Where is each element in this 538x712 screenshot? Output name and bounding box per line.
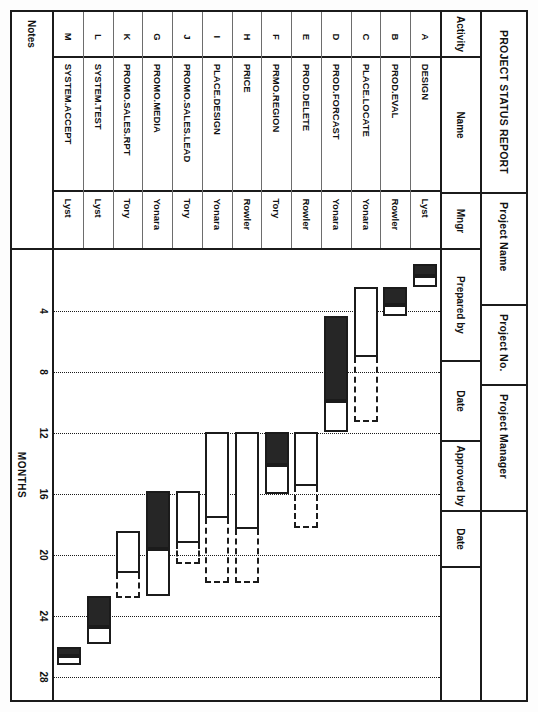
axis-tick-12: 12 <box>38 427 49 438</box>
table-row[interactable]: ADESIGNLyst <box>410 12 440 248</box>
gantt-bar[interactable] <box>57 647 81 665</box>
gantt-bar-remaining <box>265 465 289 494</box>
gantt-status-report-page: PROJECT STATUS REPORT Project Name Proje… <box>0 0 538 712</box>
gantt-bar-completed <box>383 287 407 305</box>
activity-cell: L <box>84 12 113 58</box>
gantt-bar[interactable] <box>383 287 407 316</box>
activity-cell: A <box>411 12 440 58</box>
gantt-bar[interactable] <box>294 432 318 487</box>
header-prepared-by: Prepared by <box>442 250 480 362</box>
axis-tick-4: 4 <box>38 308 49 314</box>
header-plot-spacer <box>442 568 480 700</box>
project-no-cell[interactable]: Project No. <box>482 306 526 386</box>
table-row[interactable]: FPRMO.REGIONTory <box>261 12 291 248</box>
activity-cell: I <box>203 12 232 58</box>
gantt-bar[interactable] <box>87 596 111 643</box>
gridline-month-24 <box>54 616 440 617</box>
gantt-bar-completed <box>324 316 348 401</box>
header-approved-by: Approved by <box>442 442 480 512</box>
gantt-bar-remaining <box>176 491 200 543</box>
table-row[interactable]: CPLACE.LOCATEYonara <box>351 12 381 248</box>
axis-tick-8: 8 <box>38 369 49 375</box>
gantt-bar-remaining <box>57 656 81 665</box>
manager-cell: Rowler <box>381 192 410 248</box>
activity-name-cell: SYSTEM.TEST <box>84 58 113 193</box>
project-manager-label: Project Manager <box>498 394 510 479</box>
activity-cell: B <box>381 12 410 58</box>
table-row[interactable]: HPRICERowler <box>232 12 262 248</box>
project-name-cell[interactable]: Project Name <box>482 194 526 306</box>
axis-tick-20: 20 <box>38 550 49 561</box>
notes-label: Notes <box>27 20 38 48</box>
gantt-bar-remaining <box>205 432 229 519</box>
project-no-label: Project No. <box>498 314 510 372</box>
gantt-bar-remaining <box>324 401 348 432</box>
gantt-bar[interactable] <box>265 432 289 495</box>
manager-cell: Yonara <box>203 192 232 248</box>
activity-cell: J <box>173 12 202 58</box>
gantt-bar[interactable] <box>146 491 170 596</box>
project-manager-cell[interactable]: Project Manager <box>482 386 526 512</box>
column-header-bar: Activity Name Mngr Prepared by Date Appr… <box>440 12 480 700</box>
header-mngr: Mngr <box>442 194 480 250</box>
gantt-chart-plot <box>54 250 440 700</box>
gantt-bar[interactable] <box>176 491 200 543</box>
gantt-bar[interactable] <box>116 531 140 574</box>
header-name: Name <box>442 58 480 194</box>
table-row[interactable]: IPLACE.DESIGNYonara <box>202 12 232 248</box>
report-sheet: PROJECT STATUS REPORT Project Name Proje… <box>10 10 528 702</box>
gantt-bar[interactable] <box>324 316 348 432</box>
manager-cell: Lyst <box>411 192 440 248</box>
gantt-bar[interactable] <box>354 287 378 357</box>
activity-name-cell: PLACE.LOCATE <box>352 58 381 193</box>
activity-name-cell: DESIGN <box>411 58 440 193</box>
activity-cell: M <box>54 12 83 58</box>
gantt-bar-completed <box>265 432 289 466</box>
manager-cell: Lyst <box>54 192 83 248</box>
manager-cell: Lyst <box>84 192 113 248</box>
gantt-bar-completed <box>413 264 437 276</box>
activity-name-cell: PROD.DELETE <box>292 58 321 193</box>
activity-cell: D <box>322 12 351 58</box>
gantt-bar-remaining <box>383 305 407 316</box>
manager-cell: Rowler <box>292 192 321 248</box>
activity-name-cell: PROD.EVAL <box>381 58 410 193</box>
header-activity: Activity <box>442 12 480 58</box>
table-row[interactable]: DPROD.FORCASTYonara <box>321 12 351 248</box>
gridline-month-28 <box>54 677 440 678</box>
table-row[interactable]: LSYSTEM.TESTLyst <box>83 12 113 248</box>
months-axis: MONTHS 481216202428 <box>12 250 52 700</box>
activity-cell: H <box>233 12 262 58</box>
table-row[interactable]: MSYSTEM.ACCEPTLyst <box>54 12 83 248</box>
manager-cell: Tory <box>173 192 202 248</box>
notes-cell[interactable]: Notes <box>12 12 52 250</box>
table-row[interactable]: KPROMO.SALES.RPTTory <box>113 12 143 248</box>
report-body: ADESIGNLystBPROD.EVALRowlerCPLACE.LOCATE… <box>54 12 440 700</box>
gantt-bar-remaining <box>146 549 170 596</box>
table-row[interactable]: EPROD.DELETERowler <box>291 12 321 248</box>
table-row[interactable]: JPROMO.SALES.LEADTory <box>172 12 202 248</box>
manager-cell: Yonara <box>322 192 351 248</box>
gantt-bar[interactable] <box>205 432 229 519</box>
gantt-bar[interactable] <box>413 264 437 287</box>
activity-cell: C <box>352 12 381 58</box>
table-row[interactable]: BPROD.EVALRowler <box>380 12 410 248</box>
title-bar-spacer <box>482 512 526 700</box>
axis-tick-16: 16 <box>38 489 49 500</box>
gantt-bar-completed <box>57 647 81 656</box>
activity-name-cell: PROMO.MEDIA <box>143 58 172 193</box>
gridline-month-8 <box>54 372 440 373</box>
gantt-bar-remaining <box>354 287 378 357</box>
activity-name-cell: PROMO.SALES.LEAD <box>173 58 202 193</box>
manager-cell: Yonara <box>143 192 172 248</box>
activity-name-cell: PROD.FORCAST <box>322 58 351 193</box>
table-row[interactable]: GPROMO.MEDIAYonara <box>142 12 172 248</box>
gantt-float-bar <box>176 543 200 564</box>
report-title: PROJECT STATUS REPORT <box>482 12 526 194</box>
gantt-float-bar <box>294 486 318 527</box>
activity-name-cell: PRMO.REGION <box>262 58 291 193</box>
manager-cell: Rowler <box>233 192 262 248</box>
report-title-bar: PROJECT STATUS REPORT Project Name Proje… <box>480 12 526 700</box>
activity-cell: K <box>114 12 143 58</box>
gantt-bar[interactable] <box>235 432 259 530</box>
